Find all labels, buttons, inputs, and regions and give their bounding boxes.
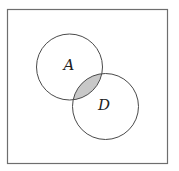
set-a-label: A: [62, 56, 75, 74]
venn-diagram: A D: [0, 0, 179, 171]
set-d-label: D: [97, 96, 110, 114]
